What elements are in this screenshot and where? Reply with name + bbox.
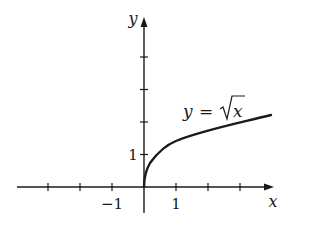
y-axis-label: y: [127, 9, 138, 28]
x-axis-arrow-icon: [264, 184, 274, 191]
x-axis-label: x: [268, 192, 277, 211]
x-axis: [17, 183, 274, 191]
curve-label-lhs: y: [182, 101, 193, 121]
sqrt-curve-line: [144, 115, 271, 187]
curve-label: y = x: [182, 96, 245, 121]
y-axis-arrow-icon: [141, 17, 148, 27]
sqrt-function-graph: −1 1 1 x y y = x: [0, 0, 309, 230]
curve-label-eq: =: [199, 101, 213, 121]
x-tick-label-1: 1: [171, 195, 181, 213]
curve-label-rhs: x: [233, 101, 243, 121]
y-tick-label-1: 1: [128, 146, 138, 164]
x-tick-label-neg1: −1: [101, 195, 123, 213]
sqrt-curve: [144, 118, 208, 187]
